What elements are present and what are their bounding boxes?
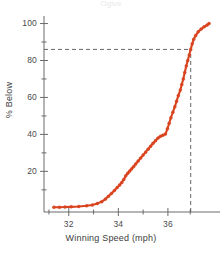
data-point — [208, 22, 211, 25]
data-point — [122, 178, 125, 181]
data-point — [182, 77, 185, 80]
data-point — [200, 28, 203, 31]
data-point — [166, 127, 169, 130]
data-point — [189, 48, 192, 51]
data-point — [110, 192, 113, 195]
data-point — [147, 148, 150, 151]
data-point — [139, 157, 142, 160]
y-tick-label: 40 — [6, 129, 37, 139]
data-point — [104, 198, 107, 201]
data-point — [180, 83, 183, 86]
data-point — [142, 154, 145, 157]
data-point — [192, 38, 195, 41]
data-point — [52, 206, 55, 209]
series-line-0 — [54, 24, 209, 208]
data-point — [175, 100, 178, 103]
data-point — [113, 189, 116, 192]
data-point — [100, 200, 103, 203]
data-point — [107, 195, 110, 198]
x-axis-title: Winning Speed (mph) — [0, 233, 222, 243]
x-tick-label: 32 — [55, 219, 83, 229]
plot-area — [0, 0, 222, 255]
data-point — [96, 202, 99, 205]
data-point — [203, 25, 206, 28]
data-point — [168, 122, 171, 125]
y-tick-label: 100 — [6, 18, 37, 28]
data-point — [64, 206, 67, 209]
data-point — [152, 142, 155, 145]
x-tick-label: 36 — [154, 219, 182, 229]
data-point — [177, 94, 180, 97]
data-point — [183, 71, 186, 74]
axes-group — [40, 16, 220, 216]
y-axis-title: % Below — [4, 70, 14, 130]
data-point — [137, 160, 140, 163]
data-point — [149, 145, 152, 148]
data-point — [197, 30, 200, 33]
data-point — [70, 205, 73, 208]
data-point — [191, 42, 194, 45]
ogive-chart: Ogive 20406080100323436 Winning Speed (m… — [0, 0, 222, 255]
data-point — [116, 186, 119, 189]
data-point — [134, 162, 137, 165]
data-point — [179, 89, 182, 92]
data-point — [185, 65, 188, 68]
data-point — [171, 111, 174, 114]
data-point — [124, 174, 127, 177]
data-point — [144, 151, 147, 154]
data-series-group — [52, 22, 210, 209]
data-point — [169, 116, 172, 119]
data-point — [58, 206, 61, 209]
y-tick-label: 80 — [6, 55, 37, 65]
data-point — [194, 34, 197, 37]
data-point — [188, 53, 191, 56]
y-tick-label: 20 — [6, 166, 37, 176]
data-point — [120, 181, 123, 184]
data-point — [132, 165, 135, 168]
data-point — [85, 204, 88, 207]
data-point — [91, 203, 94, 206]
data-point — [186, 59, 189, 62]
data-point — [118, 184, 121, 187]
data-point — [77, 205, 80, 208]
data-point — [164, 133, 167, 136]
data-point — [173, 105, 176, 108]
data-point — [154, 139, 157, 142]
x-tick-label: 34 — [104, 219, 132, 229]
